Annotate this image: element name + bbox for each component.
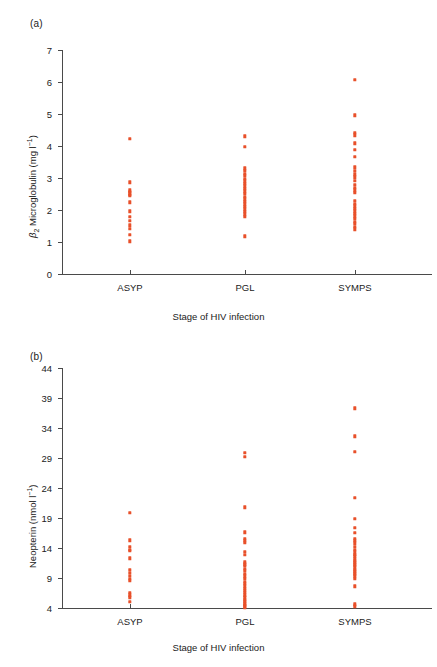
data-point bbox=[128, 224, 131, 227]
panel-a-data-points bbox=[0, 0, 437, 334]
data-point bbox=[353, 210, 356, 213]
data-point bbox=[353, 571, 356, 574]
data-point bbox=[353, 186, 356, 189]
data-point bbox=[353, 155, 356, 158]
data-point bbox=[243, 190, 246, 193]
data-point bbox=[353, 183, 356, 186]
data-point bbox=[243, 505, 246, 508]
data-point bbox=[243, 167, 246, 170]
data-point bbox=[353, 165, 356, 168]
data-point bbox=[353, 148, 356, 151]
data-point bbox=[243, 591, 246, 594]
data-point bbox=[128, 181, 131, 184]
data-point bbox=[243, 598, 246, 601]
data-point bbox=[353, 545, 356, 548]
panel-b: (b) Neopterin (nmol l−1) 491419242934394… bbox=[0, 333, 437, 667]
panel-a-x-axis bbox=[62, 274, 432, 275]
data-point bbox=[243, 145, 246, 148]
data-point bbox=[353, 179, 356, 182]
panel-b-tag: (b) bbox=[30, 351, 43, 362]
data-point bbox=[353, 450, 356, 453]
data-point bbox=[243, 135, 246, 138]
panel-a-x-axis-label: Stage of HIV infection bbox=[0, 311, 437, 322]
figure-container: (a) β2 Microglobulin (mg l−1) 01234567AS… bbox=[0, 0, 437, 667]
data-point bbox=[353, 222, 356, 225]
data-point bbox=[353, 531, 356, 534]
y-tick-label: 44 bbox=[22, 363, 52, 374]
x-tick-label-asyp: ASYP bbox=[95, 282, 165, 293]
data-point bbox=[128, 227, 131, 230]
data-point bbox=[353, 577, 356, 580]
data-point bbox=[243, 208, 246, 211]
data-point bbox=[353, 435, 356, 438]
data-point bbox=[128, 215, 131, 218]
data-point bbox=[128, 538, 131, 541]
data-point bbox=[243, 197, 246, 200]
data-point bbox=[128, 600, 131, 603]
data-point bbox=[353, 539, 356, 542]
y-tick-label: 1 bbox=[22, 237, 52, 248]
data-point bbox=[243, 539, 246, 542]
data-point bbox=[353, 227, 356, 230]
data-point bbox=[128, 571, 131, 574]
data-point bbox=[353, 537, 356, 540]
data-point bbox=[353, 212, 356, 215]
data-point bbox=[243, 564, 246, 567]
x-tick-label-asyp: ASYP bbox=[95, 616, 165, 627]
panel-b-ticks: 4914192429343944ASYPPGLSYMPS bbox=[0, 333, 437, 667]
y-tick-label: 6 bbox=[22, 77, 52, 88]
data-point bbox=[353, 220, 356, 223]
data-point bbox=[243, 187, 246, 190]
panel-a-y-axis bbox=[62, 50, 63, 274]
data-point bbox=[243, 235, 246, 238]
data-point bbox=[353, 225, 356, 228]
data-point bbox=[243, 553, 246, 556]
data-point bbox=[128, 568, 131, 571]
data-point bbox=[243, 205, 246, 208]
data-point bbox=[353, 131, 356, 134]
x-tick-label-pgl: PGL bbox=[210, 282, 280, 293]
data-point bbox=[353, 78, 356, 81]
data-point bbox=[128, 219, 131, 222]
panel-a: (a) β2 Microglobulin (mg l−1) 01234567AS… bbox=[0, 0, 437, 334]
data-point bbox=[243, 177, 246, 180]
data-point bbox=[353, 575, 356, 578]
data-point bbox=[128, 201, 131, 204]
data-point bbox=[353, 517, 356, 520]
y-tick-label: 7 bbox=[22, 45, 52, 56]
data-point bbox=[243, 531, 246, 534]
y-tick-label: 39 bbox=[22, 393, 52, 404]
data-point bbox=[243, 567, 246, 570]
data-point bbox=[243, 582, 246, 585]
data-point bbox=[243, 601, 246, 604]
data-point bbox=[353, 585, 356, 588]
data-point bbox=[243, 595, 246, 598]
data-point bbox=[353, 561, 356, 564]
y-tick-label: 9 bbox=[22, 573, 52, 584]
panel-b-x-axis-label: Stage of HIV infection bbox=[0, 642, 437, 653]
data-point bbox=[243, 603, 246, 606]
data-point bbox=[128, 190, 131, 193]
data-point bbox=[353, 191, 356, 194]
data-point bbox=[128, 511, 131, 514]
data-point bbox=[243, 200, 246, 203]
data-point bbox=[243, 541, 246, 544]
data-point bbox=[243, 174, 246, 177]
data-point bbox=[243, 215, 246, 218]
data-point bbox=[353, 548, 356, 551]
data-point bbox=[243, 562, 246, 565]
data-point bbox=[128, 192, 131, 195]
data-point bbox=[128, 595, 131, 598]
data-point bbox=[353, 133, 356, 136]
data-point bbox=[128, 194, 131, 197]
data-point bbox=[243, 569, 246, 572]
data-point bbox=[243, 600, 246, 603]
data-point bbox=[353, 202, 356, 205]
x-tick-label-pgl: PGL bbox=[210, 616, 280, 627]
panel-b-y-axis-label: Neopterin (nmol l−1) bbox=[26, 485, 38, 569]
panel-b-data-points bbox=[0, 333, 437, 667]
data-point bbox=[243, 195, 246, 198]
data-point bbox=[353, 526, 356, 529]
y-tick-label: 5 bbox=[22, 109, 52, 120]
data-point bbox=[243, 594, 246, 597]
